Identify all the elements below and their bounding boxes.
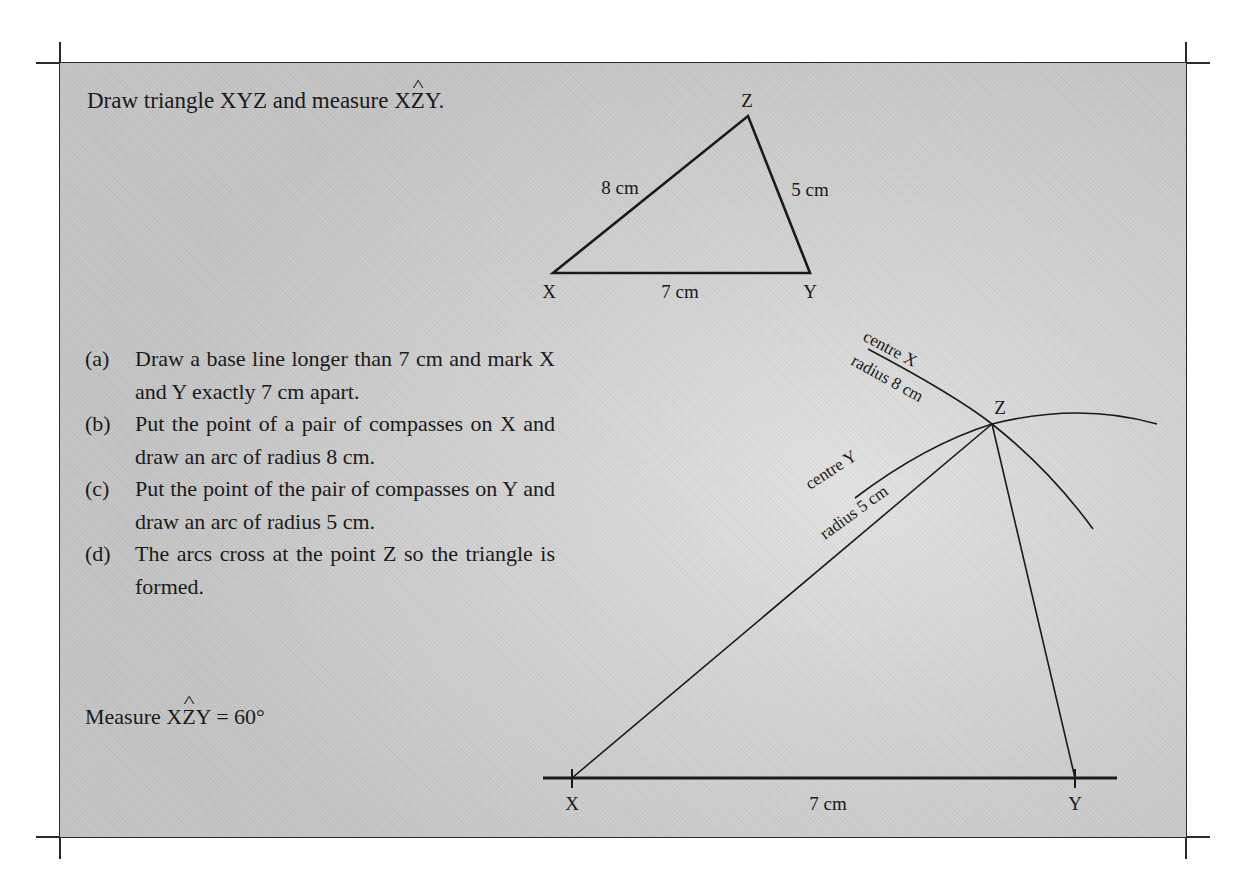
construction-diagram: X Y Z 7 cm centre X radius 8 cm centre Y… xyxy=(543,327,1157,814)
sketch-side-xy-label: 7 cm xyxy=(661,281,699,302)
sketch-vertex-x: X xyxy=(542,281,556,302)
baseline-length-label: 7 cm xyxy=(809,793,847,814)
point-x-label: X xyxy=(565,793,579,814)
sketch-side-xz-label: 8 cm xyxy=(601,177,639,198)
page-frame: Draw triangle XYZ and measure XZY. (a) D… xyxy=(0,0,1247,886)
point-z-label: Z xyxy=(994,397,1006,418)
side-xz xyxy=(572,424,992,778)
sketch-vertex-z: Z xyxy=(741,90,753,111)
diagrams-canvas: Z X Y 8 cm 5 cm 7 cm X Y Z 7 cm xyxy=(0,0,1247,886)
sketch-triangle: Z X Y 8 cm 5 cm 7 cm xyxy=(542,90,829,302)
sketch-vertex-y: Y xyxy=(803,281,817,302)
side-yz xyxy=(992,424,1075,778)
arc-y-label-radius: radius 5 cm xyxy=(816,481,891,543)
sketch-triangle-shape xyxy=(553,116,810,273)
sketch-side-yz-label: 5 cm xyxy=(791,179,829,200)
arc-y-label-centre: centre Y xyxy=(802,446,861,493)
point-y-label: Y xyxy=(1068,793,1082,814)
